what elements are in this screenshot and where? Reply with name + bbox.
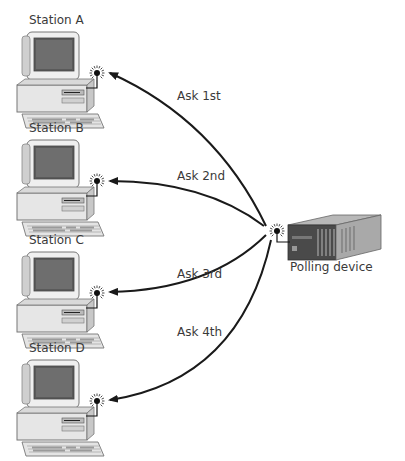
server-icon	[288, 215, 381, 260]
station-c-label: Station C	[29, 233, 84, 247]
station-a: Station A	[17, 13, 105, 128]
station-b: Station B	[17, 121, 105, 236]
polling-device: Polling device	[270, 215, 382, 274]
query-label-3: Ask 3rd	[177, 267, 222, 281]
station-d-label: Station D	[29, 341, 85, 355]
arrow-to-station-b	[110, 181, 264, 226]
computer-icon	[17, 32, 104, 128]
polling-device-label: Polling device	[290, 260, 373, 274]
station-c: Station C	[17, 233, 105, 348]
query-label-2: Ask 2nd	[177, 169, 225, 183]
query-label-4: Ask 4th	[177, 325, 222, 339]
station-d: Station D	[17, 341, 105, 456]
polling-diagram: Station A Station B Station C Station D	[0, 0, 405, 461]
station-a-label: Station A	[29, 13, 84, 27]
query-label-1: Ask 1st	[177, 89, 221, 103]
computer-icon	[17, 360, 104, 456]
computer-icon	[17, 252, 104, 348]
arrow-to-station-d	[110, 240, 271, 400]
arrow-to-station-c	[110, 235, 266, 292]
computer-icon	[17, 140, 104, 236]
station-b-label: Station B	[29, 121, 84, 135]
